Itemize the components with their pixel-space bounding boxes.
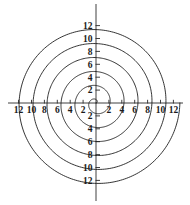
- x-tick-label-5: 2: [81, 105, 86, 115]
- y-tick-label-0: 12: [83, 21, 93, 31]
- y-tick-label-7: 4: [88, 124, 93, 134]
- y-tick-label-10: 10: [83, 163, 93, 173]
- spiral-plot-figure: 1210864224681012 1210864224681012: [0, 0, 190, 205]
- y-tick-label-11: 12: [83, 176, 93, 186]
- y-tick-label-3: 6: [88, 60, 93, 70]
- x-tick-label-8: 6: [132, 105, 137, 115]
- plot-canvas: 1210864224681012 1210864224681012: [0, 0, 190, 205]
- y-tick-label-2: 8: [88, 47, 93, 57]
- x-tick-label-10: 10: [156, 105, 166, 115]
- x-tick-label-6: 2: [107, 105, 112, 115]
- y-tick-label-9: 8: [88, 150, 93, 160]
- x-tick-label-0: 12: [14, 105, 24, 115]
- x-tick-label-7: 4: [119, 105, 124, 115]
- y-tick-label-5: 2: [88, 85, 93, 95]
- x-tick-label-2: 8: [42, 105, 47, 115]
- y-tick-label-4: 4: [88, 73, 93, 83]
- x-tick-label-4: 4: [68, 105, 73, 115]
- y-tick-label-8: 6: [88, 137, 93, 147]
- x-tick-label-9: 8: [145, 105, 150, 115]
- x-tick-label-3: 6: [55, 105, 60, 115]
- x-tick-label-11: 12: [169, 105, 179, 115]
- y-tick-label-1: 10: [83, 34, 93, 44]
- y-tick-label-6: 2: [88, 111, 93, 121]
- axes-group: [8, 4, 183, 201]
- x-tick-label-1: 10: [27, 105, 37, 115]
